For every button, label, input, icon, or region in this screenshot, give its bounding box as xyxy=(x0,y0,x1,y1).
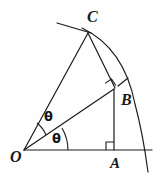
vertex-label-B: B xyxy=(121,92,132,108)
arc-tick-mark xyxy=(118,78,128,86)
geometry-canvas xyxy=(0,0,157,176)
right-angle-marker-B xyxy=(105,78,117,85)
vertex-label-O: O xyxy=(10,149,22,165)
angle-arc-theta-lower xyxy=(62,128,68,150)
geometry-figure: O C B A θ θ xyxy=(0,0,157,176)
right-angle-marker-A xyxy=(106,142,114,150)
angle-arc-theta-upper xyxy=(37,123,46,135)
segment-OB xyxy=(24,89,114,150)
angle-label-theta-upper: θ xyxy=(44,110,53,123)
vertex-label-C: C xyxy=(87,9,98,25)
vertex-label-A: A xyxy=(110,156,120,171)
angle-label-theta-lower: θ xyxy=(52,132,61,145)
tangent-at-C xyxy=(57,23,91,33)
